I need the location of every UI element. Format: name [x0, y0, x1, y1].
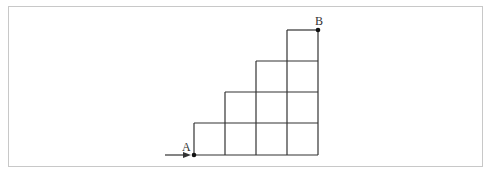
point-b-dot — [316, 28, 321, 33]
staircase-diagram: A B — [0, 0, 488, 178]
grid-lines — [194, 30, 318, 155]
point-b-label: B — [315, 14, 323, 28]
point-a-label: A — [182, 140, 191, 154]
point-a-dot — [192, 153, 197, 158]
